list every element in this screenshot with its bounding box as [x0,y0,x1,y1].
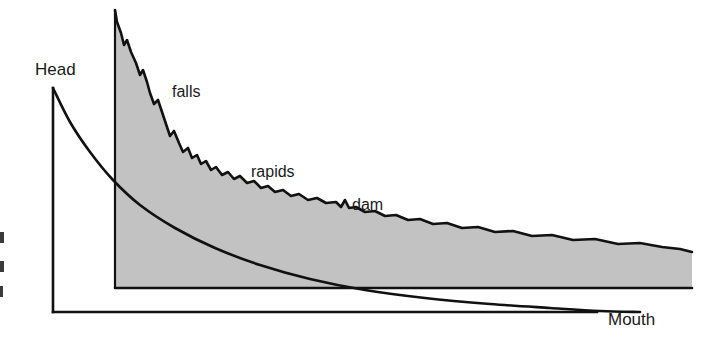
clipped-edge-mark [0,232,4,243]
label-dam: dam [352,196,383,213]
river-profile-area-group [115,10,692,288]
river-profile-fill [115,10,692,288]
river-profile-diagram: Head falls rapids dam Mouth [0,0,705,339]
figure-root: Head falls rapids dam Mouth [0,0,705,339]
clipped-edge-marks [0,232,4,297]
label-mouth: Mouth [608,310,655,329]
clipped-edge-mark [0,261,4,272]
clipped-edge-mark [0,286,3,297]
label-head: Head [35,60,76,79]
label-falls: falls [172,83,200,100]
label-rapids: rapids [251,163,295,180]
